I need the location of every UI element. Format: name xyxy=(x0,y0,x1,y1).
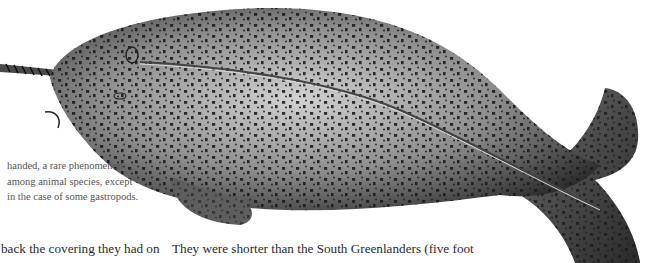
caption-line: handed, a rare phenomenon xyxy=(7,158,157,174)
caption-line: in the case of some gastropods. xyxy=(7,189,157,205)
body-text-left-column: back the covering they had on xyxy=(1,241,160,257)
narwhal-illustration xyxy=(0,0,647,263)
body-text-right-column: They were shorter than the South Greenla… xyxy=(172,241,474,257)
figure-caption: handed, a rare phenomenon among animal s… xyxy=(7,158,157,205)
tusk xyxy=(0,64,58,76)
caption-line: among animal species, except xyxy=(7,174,157,190)
